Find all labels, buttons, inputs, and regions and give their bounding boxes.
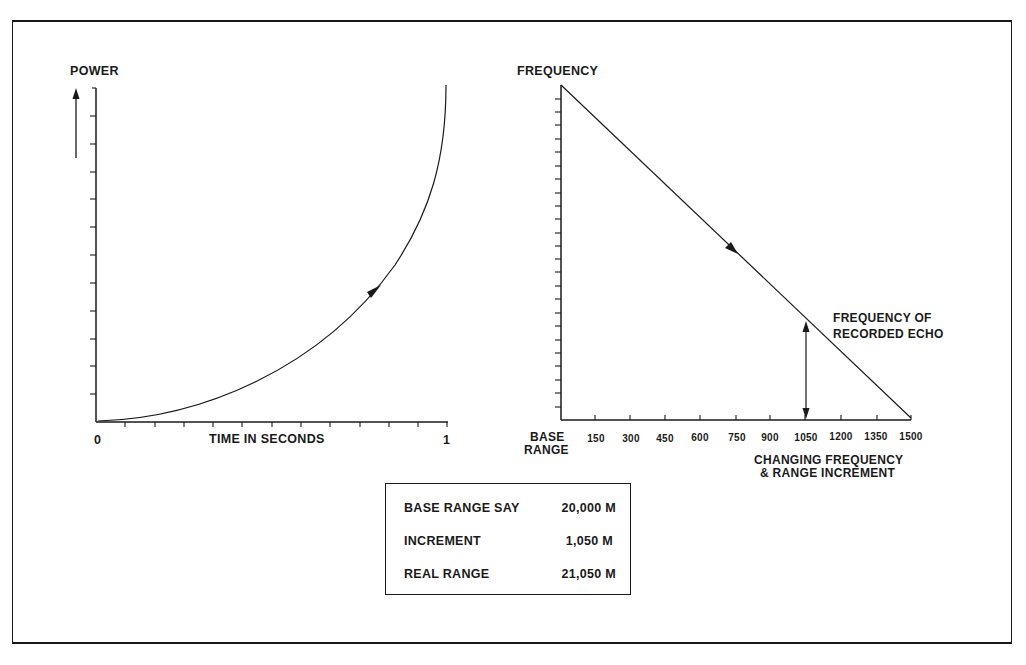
x-tick-label: 1050 [794,432,818,443]
power-chart: POWER [70,64,450,447]
frequency-chart: FREQUENCY [517,64,944,480]
range-calculation-box: BASE RANGE SAY 20,000 M INCREMENT 1,050 … [385,483,631,595]
frequency-x-tick-labels: 150 300 450 600 750 900 1050 1200 1350 1… [587,431,923,444]
echo-double-arrow-icon [803,321,810,419]
info-value: 1,050 M [566,534,613,548]
echo-annotation-line2: RECORDED ECHO [833,327,944,341]
x-tick-label: 750 [728,432,746,443]
info-value: 21,050 M [561,567,616,581]
info-label: REAL RANGE [404,567,489,581]
power-curve-arrow-icon [367,285,381,298]
frequency-sweep-arrow-icon [725,242,738,254]
info-label: BASE RANGE SAY [404,501,520,515]
x-tick-label: 1350 [864,431,888,442]
base-range-label-line2: RANGE [524,443,569,457]
x-tick-label: 150 [587,433,605,444]
x-tick-label: 300 [622,433,640,444]
x-title-line2: & RANGE INCREMENT [760,466,895,480]
info-value: 20,000 M [561,501,616,515]
x-tick-label: 600 [691,432,709,443]
x-tick-label: 1500 [899,431,923,442]
power-up-arrow-icon [73,88,80,158]
power-y-ticks [90,88,96,394]
x-tick-label: 450 [656,433,674,444]
base-range-label-line1: BASE [530,430,565,444]
power-x-tick-1: 1 [443,433,450,447]
x-title-line1: CHANGING FREQUENCY [754,453,903,467]
x-tick-label: 1200 [829,431,853,442]
x-tick-label: 900 [761,432,779,443]
power-x-tick-0: 0 [94,433,101,447]
frequency-axis-label: FREQUENCY [517,64,599,78]
info-label: INCREMENT [404,534,481,548]
power-axis-label: POWER [70,64,119,78]
echo-annotation-line1: FREQUENCY OF [833,311,932,325]
frequency-y-ticks [555,99,561,407]
power-x-axis-label: TIME IN SECONDS [209,432,325,446]
power-curve [98,85,446,421]
